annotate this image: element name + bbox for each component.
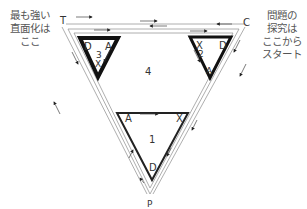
triangle-3-label-d: D (84, 41, 92, 52)
region-4-label: 4 (145, 66, 151, 77)
triangle-1-label-x: X (176, 113, 183, 124)
triangle-1-label-a: A (125, 113, 132, 124)
triangle-3-label-a: A (105, 41, 112, 52)
vertex-label-top-right: C (243, 17, 250, 28)
triangle-2-number: 2 (198, 49, 204, 59)
triangle-2-label-a: A (206, 66, 213, 76)
drama-triangle-diagram: T C P 4 D A 3 X X D 2 A A X 1 D (0, 0, 307, 209)
triangle-1-label-d: D (149, 162, 157, 173)
triangle-3-label-x: X (95, 59, 101, 69)
triangle-2-label-d: D (219, 40, 227, 51)
triangle-1-number: 1 (149, 134, 155, 145)
vertex-label-bottom: P (147, 199, 153, 209)
vertex-label-top-left: T (59, 15, 67, 26)
